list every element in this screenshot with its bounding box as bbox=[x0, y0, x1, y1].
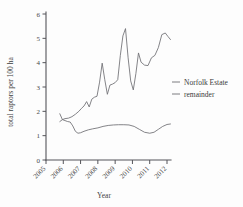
y-tick-label: 2 bbox=[37, 108, 41, 116]
y-tick-label: 3 bbox=[37, 84, 41, 92]
x-tick-label: 2009 bbox=[101, 164, 117, 180]
chart-legend: Norfolk Estateremainder bbox=[172, 78, 229, 99]
legend-label: remainder bbox=[184, 90, 215, 99]
x-axis: 20052006200720082009201020112012 bbox=[32, 160, 171, 180]
series-line-remainder bbox=[60, 120, 171, 134]
legend-label: Norfolk Estate bbox=[184, 78, 229, 87]
data-series-group bbox=[60, 29, 171, 134]
y-axis-title: total raptors per 100 ha bbox=[6, 57, 15, 127]
x-tick-label: 2005 bbox=[32, 164, 48, 180]
line-chart: 0123456 20052006200720082009201020112012… bbox=[0, 0, 243, 207]
x-tick-label: 2006 bbox=[49, 164, 65, 180]
x-axis-title: Year bbox=[97, 191, 111, 200]
chart-figure: 0123456 20052006200720082009201020112012… bbox=[0, 0, 243, 207]
y-tick-label: 5 bbox=[37, 35, 41, 43]
legend-item: Norfolk Estate bbox=[172, 78, 229, 87]
y-tick-label: 1 bbox=[37, 132, 41, 140]
y-tick-label: 6 bbox=[37, 11, 41, 19]
x-tick-label: 2007 bbox=[66, 164, 82, 180]
y-tick-label: 4 bbox=[37, 59, 41, 67]
y-tick-label: 0 bbox=[37, 157, 41, 165]
x-tick-label: 2011 bbox=[136, 164, 152, 180]
y-axis: 0123456 bbox=[37, 11, 47, 165]
x-tick-label: 2008 bbox=[84, 164, 100, 180]
legend-item: remainder bbox=[172, 90, 215, 99]
x-tick-label: 2012 bbox=[153, 164, 169, 180]
x-tick-label: 2010 bbox=[118, 164, 134, 180]
series-line-norfolk-estate bbox=[60, 29, 171, 120]
